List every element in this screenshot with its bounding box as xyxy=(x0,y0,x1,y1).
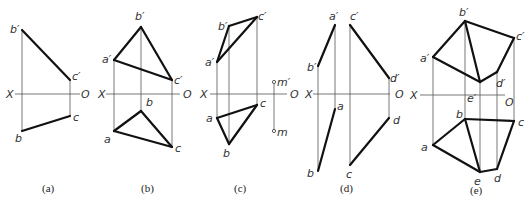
projection-edge xyxy=(497,38,514,72)
panel-b: XOb′a′c′bac(b) xyxy=(97,10,192,195)
projection-edge xyxy=(229,105,257,144)
vertex-label: c xyxy=(73,111,79,124)
vertex-label: a′ xyxy=(205,56,215,69)
projection-figure: XOb′c′cb(a)XOb′a′c′bac(b)XOm′mb′c′a′cab(… xyxy=(0,0,532,206)
vertex-label: b xyxy=(146,96,153,109)
vertex-label: d′ xyxy=(496,77,506,90)
panel-caption: (a) xyxy=(42,182,55,195)
projection-edge xyxy=(22,116,70,131)
projection-edge xyxy=(114,131,172,147)
projection-edge xyxy=(480,72,497,82)
projection-edge xyxy=(465,21,480,82)
vertex-label: b′ xyxy=(307,61,317,74)
projection-edge xyxy=(318,109,335,171)
vertex-label: c xyxy=(346,168,352,181)
projection-edge xyxy=(318,25,335,66)
point-label: m′ xyxy=(277,76,291,89)
vertex-label: d xyxy=(494,172,502,185)
vertex-label: b′ xyxy=(459,6,469,19)
vertex-label: b xyxy=(456,108,463,121)
panel-d: XOa′c′b′d′adbc(d) xyxy=(304,10,404,195)
vertex-label: b′ xyxy=(135,10,145,23)
panel-a: XOb′c′cb(a) xyxy=(5,23,90,195)
axis-x-label: X xyxy=(304,88,313,101)
projection-edge xyxy=(465,21,514,38)
axis-origin-label: O xyxy=(395,88,404,101)
panel-c: XOm′mb′c′a′cab(c) xyxy=(199,10,299,195)
vertex-label: c′ xyxy=(258,10,267,23)
vertex-label: a xyxy=(337,100,344,113)
vertex-label: c′ xyxy=(350,10,359,23)
point-marker xyxy=(272,80,275,83)
axis-x-label: X xyxy=(199,88,208,101)
vertex-label: c xyxy=(260,97,266,110)
vertex-label: a′ xyxy=(420,52,430,65)
panel-caption: (c) xyxy=(234,182,247,195)
panel-caption: (b) xyxy=(141,182,154,195)
vertex-label: b xyxy=(15,132,22,145)
projection-diagram-svg: XOb′c′cb(a)XOb′a′c′bac(b)XOm′mb′c′a′cab(… xyxy=(0,0,532,206)
projection-edge xyxy=(114,111,141,131)
projection-edge xyxy=(350,25,389,78)
vertex-label: c xyxy=(518,116,524,129)
axis-x-label: X xyxy=(5,88,14,101)
point-marker xyxy=(272,129,275,132)
axis-origin-label: O xyxy=(81,88,90,101)
vertex-label: b xyxy=(307,167,314,180)
vertex-label: c′ xyxy=(72,70,81,83)
projection-edge xyxy=(433,119,465,145)
projection-edge xyxy=(22,30,70,80)
vertex-label: a xyxy=(104,133,111,146)
vertex-label: c′ xyxy=(516,30,525,43)
projection-edge xyxy=(433,21,465,57)
vertex-label: a′ xyxy=(102,53,112,66)
vertex-label: d xyxy=(393,114,401,127)
vertex-label: d′ xyxy=(390,72,400,85)
projection-edge xyxy=(497,121,514,169)
axis-origin-label: O xyxy=(183,88,192,101)
vertex-label: e′ xyxy=(467,92,477,105)
vertex-label: c′ xyxy=(174,74,183,87)
vertex-label: c xyxy=(175,142,181,155)
vertex-label: b′ xyxy=(218,20,228,33)
vertex-label: a xyxy=(421,141,428,154)
panel-caption: (d) xyxy=(340,182,353,195)
axis-x-label: X xyxy=(97,88,106,101)
projection-edge xyxy=(433,57,480,82)
vertex-label: b′ xyxy=(10,23,20,36)
axis-x-label: X xyxy=(409,89,418,102)
projection-edge xyxy=(217,118,229,144)
vertex-label: b xyxy=(223,147,230,160)
panel-e: XOb′c′a′d′e′bcaed(e) xyxy=(409,6,525,197)
projection-edge xyxy=(350,118,389,165)
axis-origin-label: O xyxy=(505,96,514,109)
projection-edge xyxy=(114,27,141,60)
projection-edge xyxy=(465,119,514,121)
panel-caption: (e) xyxy=(470,184,483,197)
vertex-label: a′ xyxy=(329,10,339,23)
vertex-label: a xyxy=(206,112,213,125)
point-label: m xyxy=(277,126,288,139)
axis-origin-label: O xyxy=(290,88,299,101)
